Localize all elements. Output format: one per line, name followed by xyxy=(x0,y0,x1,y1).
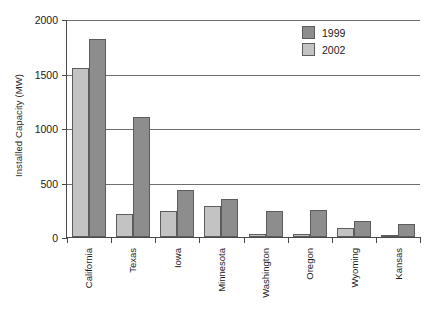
legend-label: 1999 xyxy=(322,27,345,39)
bar xyxy=(310,210,327,237)
bar xyxy=(221,199,238,237)
bar-group xyxy=(67,20,111,237)
y-axis-tick-label: 1000 xyxy=(35,123,58,135)
y-axis-tick-label: 1500 xyxy=(35,69,58,81)
x-axis-label-cell: Minnesota xyxy=(199,238,243,315)
x-axis-tick-label: Kansas xyxy=(392,248,403,280)
x-axis-label-cell: California xyxy=(66,238,110,315)
x-axis-tick-label: Iowa xyxy=(171,248,182,268)
bar xyxy=(381,235,398,237)
x-axis-label-cell: Iowa xyxy=(155,238,199,315)
chart-legend: 1999 2002 xyxy=(294,18,355,64)
bar-chart: Installed Capacity (MW) 0500100015002000… xyxy=(0,0,429,315)
x-axis-tick-mark xyxy=(420,237,421,243)
bar xyxy=(266,211,283,237)
bar xyxy=(204,206,221,237)
legend-item: 2002 xyxy=(302,41,345,58)
bar xyxy=(398,224,415,237)
bar-group xyxy=(244,20,288,237)
x-axis-tick-label: Minnesota xyxy=(215,248,226,292)
bar xyxy=(72,68,89,237)
bar xyxy=(160,211,177,237)
y-axis-title: Installed Capacity (MW) xyxy=(13,36,24,216)
bar xyxy=(177,190,194,237)
bar xyxy=(89,39,106,237)
bar-group xyxy=(199,20,243,237)
bar xyxy=(133,117,150,237)
x-axis-label-cell: Kansas xyxy=(376,238,420,315)
y-axis-tick-label: 0 xyxy=(52,232,58,244)
x-axis-tick-label: Texas xyxy=(127,248,138,273)
bar xyxy=(337,228,354,237)
bar xyxy=(293,234,310,237)
y-axis-tick-label: 500 xyxy=(40,178,58,190)
legend-swatch-icon xyxy=(302,26,315,39)
bar xyxy=(354,221,371,237)
legend-item: 1999 xyxy=(302,24,345,41)
y-axis-tick-label: 2000 xyxy=(35,14,58,26)
x-axis-labels: CaliforniaTexasIowaMinnesotaWashingtonOr… xyxy=(66,238,420,315)
bar-group xyxy=(111,20,155,237)
x-axis-label-cell: Texas xyxy=(110,238,154,315)
legend-swatch-icon xyxy=(302,43,315,56)
x-axis-tick-label: Wyoming xyxy=(348,248,359,288)
plot-area: 0500100015002000 xyxy=(66,20,420,238)
x-axis-label-cell: Oregon xyxy=(287,238,331,315)
bar xyxy=(249,234,266,237)
x-axis-tick-label: California xyxy=(83,248,94,288)
x-axis-tick-label: Washington xyxy=(260,248,271,298)
bar-groups xyxy=(67,20,420,237)
bar-group xyxy=(155,20,199,237)
x-axis-label-cell: Wyoming xyxy=(332,238,376,315)
bar-group xyxy=(376,20,420,237)
bar xyxy=(116,214,133,237)
x-axis-tick-label: Oregon xyxy=(304,248,315,280)
legend-label: 2002 xyxy=(322,44,345,56)
x-axis-label-cell: Washington xyxy=(243,238,287,315)
